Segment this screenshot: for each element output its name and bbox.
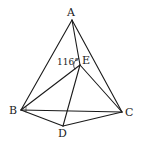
- segment-be: [21, 65, 80, 110]
- label-d: D: [58, 127, 67, 140]
- segment-ce: [80, 65, 122, 112]
- label-c: C: [125, 106, 133, 119]
- segment-bd: [21, 110, 63, 126]
- label-a: A: [66, 6, 76, 19]
- geometry-diagram: A B C D E 116°: [0, 0, 143, 147]
- angle-label-116: 116°: [57, 57, 79, 67]
- label-e: E: [82, 54, 90, 67]
- label-b: B: [9, 104, 17, 117]
- segment-bc: [21, 110, 122, 112]
- segment-cd: [63, 112, 122, 126]
- segment-de: [63, 65, 80, 126]
